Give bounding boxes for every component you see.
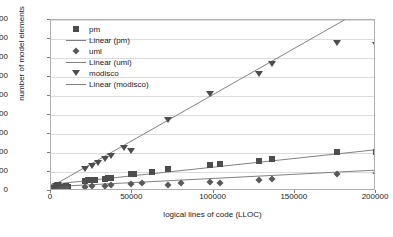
data-point-pm [92,177,98,183]
y-axis-tick-label: 4000 [0,110,8,118]
legend-item-modisco: modisco [65,68,149,79]
legend-diamond-icon [65,46,87,57]
y-axis-tick-label: 9000 [0,15,8,23]
x-axis-tick-mark [213,190,214,193]
legend-label: pm [87,25,100,34]
legend-marker-glyph [72,47,79,54]
data-point-pm [131,171,137,177]
legend-line-swatch [65,57,87,68]
legend-line-swatch [65,35,87,46]
legend-marker-glyph [73,26,79,32]
legend-marker-glyph [72,70,80,76]
legend-line-glyph [66,62,86,63]
legend-line-glyph [66,40,86,41]
y-axis-tick-label: 3000 [0,129,8,137]
legend-line-swatch [65,79,87,90]
trendline-uml [51,170,374,187]
legend-label: Linear (modisco) [87,80,149,89]
data-point-modisco [255,71,263,77]
data-point-modisco [372,42,375,48]
y-axis-tick-label: 5000 [0,91,8,99]
data-point-modisco [107,153,115,159]
legend-label: Linear (uml) [87,58,132,67]
data-point-pm [165,166,171,172]
legend-item-linear-pm: Linear (pm) [65,35,149,46]
legend-label: Linear (pm) [87,36,130,45]
data-point-modisco [127,148,135,154]
legend-item-linear-modisco: Linear (modisco) [65,79,149,90]
data-point-modisco [164,117,172,123]
x-axis-tick-mark [294,190,295,193]
legend-line-glyph [66,84,86,85]
data-point-pm [334,149,340,155]
x-axis-tick-mark [131,190,132,193]
data-point-modisco [54,182,62,188]
data-point-pm [149,169,155,175]
legend-item-linear-uml: Linear (uml) [65,57,149,68]
data-point-pm [108,175,114,181]
x-axis-tick-label: 0 [20,193,80,201]
data-point-pm [256,158,262,164]
x-axis-tick-mark [50,190,51,193]
y-axis-title: number of model elements [17,0,26,124]
y-axis-tick-label: 1000 [0,167,8,175]
legend-triangle-down-icon [65,68,87,79]
x-axis-tick-label: 150000 [264,193,324,201]
legend-label: uml [87,47,102,56]
chart-legend: pmLinear (pm)umlLinear (uml)modiscoLinea… [63,23,151,91]
x-axis-tick-mark [375,190,376,193]
data-point-pm [207,162,213,168]
plot-area: pmLinear (pm)umlLinear (uml)modiscoLinea… [50,19,375,190]
x-axis-title: logical lines of code (LLOC) [50,210,375,219]
y-axis-tick-label: 2000 [0,148,8,156]
data-point-pm [217,161,223,167]
y-axis-tick-label: 7000 [0,53,8,61]
data-point-pm [373,149,375,155]
y-axis-tick-label: 8000 [0,34,8,42]
y-axis-tick-label: 6000 [0,72,8,80]
legend-item-pm: pm [65,24,149,35]
x-axis-tick-label: 50000 [101,193,161,201]
x-axis-tick-label: 100000 [183,193,243,201]
x-axis-tick-label: 200000 [345,193,393,201]
data-point-modisco [268,61,276,67]
y-axis-tick-label: 0 [4,186,8,194]
data-point-modisco [206,91,214,97]
legend-item-uml: uml [65,46,149,57]
legend-square-icon [65,24,87,35]
data-point-modisco [333,40,341,46]
legend-label: modisco [87,69,119,78]
data-point-pm [269,156,275,162]
